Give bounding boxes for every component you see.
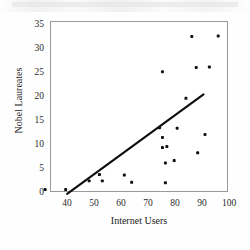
data-point — [44, 188, 47, 191]
data-point — [88, 179, 91, 182]
data-point — [190, 35, 193, 38]
data-point-group — [44, 35, 220, 192]
data-point — [64, 188, 67, 191]
data-point — [98, 173, 101, 176]
data-point — [101, 179, 104, 182]
x-axis-title: Internet Users — [50, 215, 228, 226]
x-tick-40: 40 — [54, 198, 80, 208]
data-point — [165, 145, 168, 148]
scan-noise-band-secondary — [12, 2, 238, 7]
x-tick-50: 50 — [81, 198, 107, 208]
data-point — [161, 70, 164, 73]
y-tick-5: 5 — [22, 163, 44, 173]
y-tick-20: 20 — [22, 91, 44, 101]
data-point — [208, 65, 211, 68]
x-tick-100: 100 — [216, 198, 242, 208]
y-tick-0: 0 — [22, 187, 44, 197]
y-tick-25: 25 — [22, 67, 44, 77]
data-point — [176, 127, 179, 130]
x-tick-80: 80 — [162, 198, 188, 208]
data-point — [164, 181, 167, 184]
data-point — [161, 146, 164, 149]
data-point — [161, 136, 164, 139]
y-tick-10: 10 — [22, 139, 44, 149]
data-point — [184, 97, 187, 100]
scatter-chart-figure: 35 30 25 20 15 10 5 0 40 50 60 70 80 90 … — [0, 0, 250, 250]
data-point — [130, 181, 133, 184]
x-tick-70: 70 — [135, 198, 161, 208]
y-tick-35: 35 — [22, 19, 44, 29]
data-point — [173, 159, 176, 162]
y-tick-30: 30 — [22, 43, 44, 53]
data-point — [217, 35, 220, 38]
trend-line — [67, 94, 203, 193]
plot-area — [50, 21, 228, 192]
data-point — [123, 174, 126, 177]
x-tick-90: 90 — [189, 198, 215, 208]
y-tick-15: 15 — [22, 115, 44, 125]
x-tick-60: 60 — [108, 198, 134, 208]
y-axis-title: Nobel Laureates — [13, 46, 24, 156]
data-point — [164, 162, 167, 165]
data-point — [196, 151, 199, 154]
data-point — [195, 66, 198, 69]
data-point — [204, 133, 207, 136]
scan-noise-band — [0, 0, 250, 12]
data-point — [158, 126, 161, 129]
plot-canvas — [51, 22, 227, 191]
